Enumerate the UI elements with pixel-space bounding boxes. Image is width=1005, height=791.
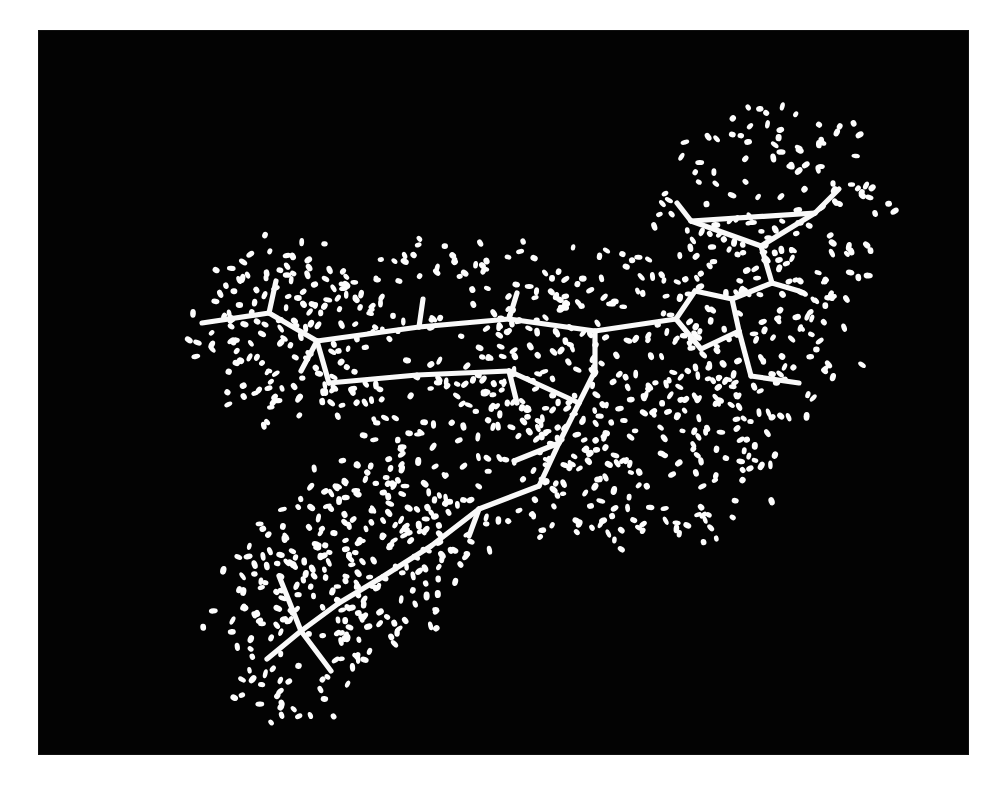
surface-dot <box>363 622 373 631</box>
surface-dot <box>728 131 736 138</box>
surface-dot <box>778 218 786 225</box>
surface-dot <box>427 386 434 392</box>
surface-dot <box>745 464 755 473</box>
surface-dot <box>344 680 351 689</box>
surface-dot <box>851 153 860 158</box>
surface-dot <box>674 383 684 391</box>
surface-dot <box>504 399 510 407</box>
surface-dot <box>413 505 422 514</box>
surface-dot <box>855 273 862 281</box>
surface-dot <box>326 398 336 408</box>
surface-dot <box>303 255 313 265</box>
surface-dot <box>597 359 605 367</box>
surface-dot <box>595 413 604 419</box>
surface-dot <box>387 632 395 641</box>
surface-dot <box>804 390 811 398</box>
surface-dot <box>865 194 874 201</box>
bond-stick <box>417 371 509 375</box>
surface-dot <box>462 361 472 371</box>
surface-dot <box>768 460 773 469</box>
surface-dot <box>472 409 479 415</box>
surface-dot <box>646 504 655 510</box>
bond-stick <box>701 331 739 349</box>
surface-dot <box>454 436 464 444</box>
surface-dot <box>319 632 327 638</box>
surface-dot <box>475 343 485 352</box>
surface-dot <box>664 328 670 337</box>
surface-dot <box>767 496 775 506</box>
surface-dot <box>253 317 262 325</box>
surface-dot <box>398 595 404 604</box>
surface-dot <box>635 481 643 489</box>
surface-dot <box>827 238 838 248</box>
surface-dot <box>299 375 306 381</box>
surface-dot <box>677 252 683 260</box>
surface-dot <box>787 334 797 344</box>
surface-dot <box>689 440 697 449</box>
surface-dot <box>553 423 562 432</box>
surface-dot <box>380 414 390 423</box>
surface-dot <box>345 345 351 352</box>
surface-dot <box>313 320 322 330</box>
surface-dot <box>732 416 741 423</box>
surface-dot <box>659 400 665 407</box>
surface-dot <box>342 617 348 624</box>
surface-dot <box>610 485 618 495</box>
surface-dot <box>680 139 690 146</box>
surface-dot <box>801 160 811 169</box>
surface-dot <box>718 359 728 369</box>
surface-dot <box>667 312 675 317</box>
surface-dot <box>885 200 893 207</box>
surface-dot <box>343 363 351 371</box>
surface-dot <box>669 369 678 376</box>
surface-dot <box>601 472 609 482</box>
surface-dot <box>750 264 760 273</box>
surface-dot <box>631 334 641 344</box>
surface-dot <box>512 281 521 288</box>
surface-dot <box>320 696 328 703</box>
bond-stick <box>317 341 329 383</box>
surface-dot <box>277 628 284 637</box>
surface-dot <box>533 287 539 296</box>
surface-dot <box>753 276 761 281</box>
surface-dot <box>587 503 595 510</box>
surface-dot <box>233 553 243 561</box>
surface-dot <box>746 452 752 460</box>
surface-dot <box>455 501 460 509</box>
surface-dot <box>342 573 350 580</box>
surface-dot <box>677 152 686 162</box>
surface-dot <box>340 510 348 519</box>
surface-dot <box>294 712 303 720</box>
surface-dot <box>191 353 201 360</box>
surface-dot <box>703 201 710 208</box>
surface-dot <box>585 286 595 295</box>
surface-dot <box>360 656 370 664</box>
surface-dot <box>738 476 747 485</box>
surface-dot <box>334 293 343 302</box>
surface-dot <box>310 280 319 288</box>
surface-dot <box>735 402 744 412</box>
surface-dot <box>287 341 295 349</box>
surface-dot <box>722 454 730 462</box>
surface-dot <box>777 352 786 361</box>
surface-dot <box>330 712 338 720</box>
surface-dot <box>277 506 287 513</box>
surface-dot <box>277 676 284 685</box>
surface-dot <box>368 396 374 404</box>
surface-dot <box>608 378 617 387</box>
surface-dot <box>401 616 410 626</box>
surface-dot <box>399 570 406 576</box>
surface-dot <box>548 347 558 357</box>
surface-dot <box>390 257 398 265</box>
surface-dot <box>742 266 752 275</box>
surface-dot <box>349 663 355 672</box>
surface-dot <box>555 268 562 276</box>
surface-dot <box>233 347 241 355</box>
surface-dot <box>344 291 349 299</box>
surface-dot <box>291 353 300 361</box>
surface-dot <box>609 512 616 519</box>
surface-dot <box>395 277 403 284</box>
surface-dot <box>727 191 737 200</box>
surface-dot <box>685 227 690 234</box>
surface-dot <box>615 370 624 379</box>
